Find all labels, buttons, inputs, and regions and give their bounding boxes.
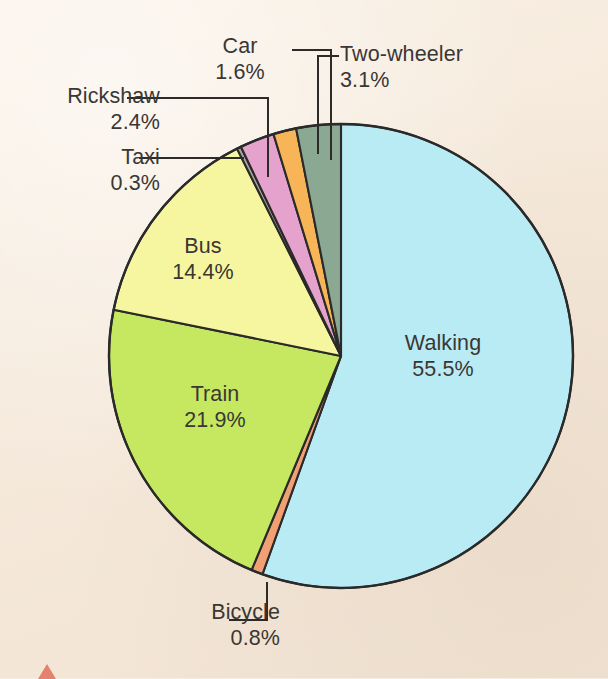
slice-label-bus: Bus 14.4% — [148, 234, 258, 285]
slice-label-bicycle: Bicycle 0.8% — [140, 600, 280, 651]
slice-label-bicycle-value: 0.8% — [140, 626, 280, 652]
slice-label-bus-value: 14.4% — [148, 260, 258, 286]
slice-label-taxi-name: Taxi — [121, 145, 160, 169]
slice-label-two-wheeler: Two-wheeler 3.1% — [340, 42, 560, 93]
page-corner-mark-icon — [38, 664, 56, 679]
slice-label-car: Car 1.6% — [185, 34, 295, 85]
slice-label-walking-value: 55.5% — [378, 357, 508, 383]
slice-label-car-value: 1.6% — [185, 60, 295, 86]
slice-label-two-wheeler-name: Two-wheeler — [340, 42, 463, 66]
slice-label-bicycle-name: Bicycle — [211, 600, 280, 624]
slice-label-taxi-value: 0.3% — [10, 171, 160, 197]
slice-label-bus-name: Bus — [184, 234, 221, 258]
slice-label-two-wheeler-value: 3.1% — [340, 68, 560, 94]
slice-label-train-value: 21.9% — [160, 408, 270, 434]
slice-label-taxi: Taxi 0.3% — [10, 145, 160, 196]
slice-label-train-name: Train — [191, 382, 240, 406]
slice-label-walking: Walking 55.5% — [378, 331, 508, 382]
slice-label-walking-name: Walking — [405, 331, 481, 355]
slice-label-rickshaw: Rickshaw 2.4% — [10, 84, 160, 135]
slice-label-rickshaw-value: 2.4% — [10, 110, 160, 136]
slice-label-train: Train 21.9% — [160, 382, 270, 433]
slice-label-rickshaw-name: Rickshaw — [67, 84, 160, 108]
slice-label-car-name: Car — [223, 34, 258, 58]
